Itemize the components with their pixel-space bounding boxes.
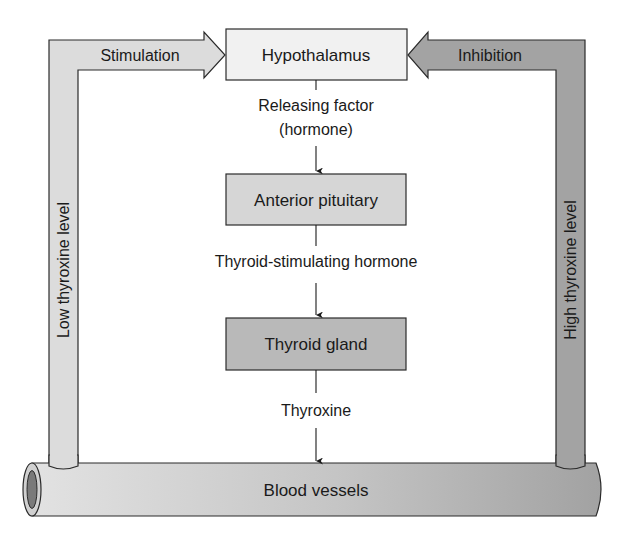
anterior-pituitary-node: Anterior pituitary — [226, 174, 406, 225]
stimulation-pathway: Stimulation Low thyroxine level — [49, 32, 225, 475]
thyroxine-edge: Thyroxine — [281, 370, 351, 461]
hormone-label: (hormone) — [279, 121, 353, 138]
inhibition-arrow-shape — [408, 32, 585, 475]
thyroid-gland-node: Thyroid gland — [226, 318, 406, 370]
tsh-edge: Thyroid-stimulating hormone — [215, 225, 418, 315]
stimulation-arrow-shape — [49, 32, 225, 475]
hypothalamus-label: Hypothalamus — [262, 46, 371, 65]
thyroid-gland-label: Thyroid gland — [264, 335, 367, 354]
high-thyroxine-level-label: High thyroxine level — [562, 200, 579, 340]
stimulation-label: Stimulation — [100, 47, 179, 64]
anterior-pituitary-label: Anterior pituitary — [254, 191, 378, 210]
vessel-lumen — [27, 471, 37, 509]
low-thyroxine-level-label: Low thyroxine level — [55, 202, 72, 338]
thyroid-feedback-diagram: Stimulation Low thyroxine level Inhibiti… — [0, 0, 622, 539]
releasing-factor-edge: Releasing factor (hormone) — [258, 80, 374, 171]
releasing-factor-label: Releasing factor — [258, 97, 374, 114]
blood-vessels-label: Blood vessels — [264, 481, 369, 500]
hypothalamus-node: Hypothalamus — [226, 29, 407, 80]
inhibition-pathway: Inhibition High thyroxine level — [408, 32, 585, 475]
tsh-label: Thyroid-stimulating hormone — [215, 253, 418, 270]
inhibition-label: Inhibition — [458, 47, 522, 64]
thyroxine-label: Thyroxine — [281, 402, 351, 419]
blood-vessels: Blood vessels — [23, 452, 601, 516]
